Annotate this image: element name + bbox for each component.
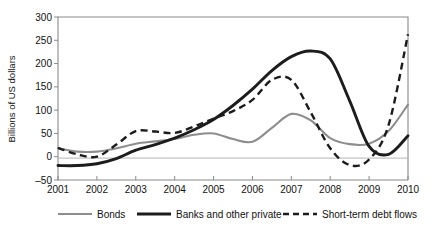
legend: Bonds Banks and other private Short-term… [58,209,417,220]
x-tick-label: 2008 [319,184,342,195]
legend-label-bonds: Bonds [97,209,125,220]
line-chart: Billions of US dollars –5005010015020025… [0,0,436,232]
y-tick-label: 300 [35,12,52,23]
legend-label-banks-and-other-private: Banks and other private [176,209,282,220]
y-tick-label: 0 [46,151,52,162]
y-axis-label: Billions of US dollars [6,55,17,142]
x-tick-label: 2005 [202,184,225,195]
y-tick-label: 100 [35,105,52,116]
y-tick-label: 150 [35,81,52,92]
series-line-short-term-debt-flows [58,34,408,166]
y-tick-label: 250 [35,35,52,46]
chart-container: Billions of US dollars –5005010015020025… [0,0,436,232]
x-tick-label: 2010 [397,184,420,195]
y-tick-label: 50 [41,128,53,139]
tick-marks [54,17,408,180]
y-tick-label: 200 [35,58,52,69]
y-tick-labels: –50050100150200250300 [35,12,52,186]
plot-frame [58,17,408,180]
x-tick-label: 2007 [280,184,303,195]
legend-label-short-term-debt-flows: Short-term debt flows [322,209,417,220]
x-tick-label: 2003 [125,184,148,195]
x-tick-label: 2009 [358,184,381,195]
x-tick-labels: 2001200220032004200520062007200820092010 [47,184,420,195]
x-tick-label: 2002 [86,184,109,195]
x-tick-label: 2006 [241,184,264,195]
x-tick-label: 2001 [47,184,70,195]
x-tick-label: 2004 [164,184,187,195]
